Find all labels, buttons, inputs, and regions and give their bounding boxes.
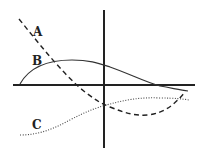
curve-c-label: C: [32, 118, 42, 132]
curve-a-dashed: [19, 19, 185, 115]
curves-diagram: A B C: [0, 0, 203, 156]
curve-a-label: A: [32, 25, 43, 39]
curve-b-label: B: [32, 54, 42, 68]
